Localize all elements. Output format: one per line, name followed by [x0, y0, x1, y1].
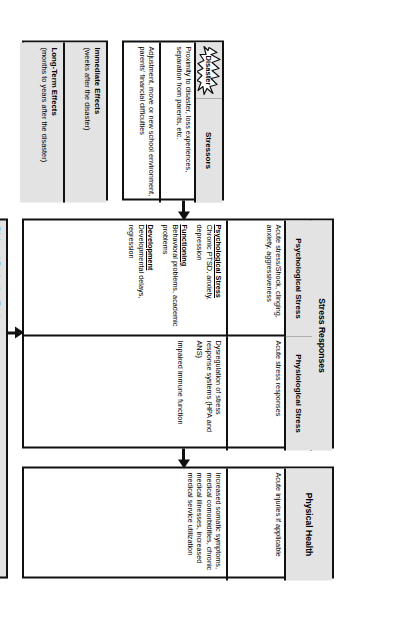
row-label-immediate-title: Immediate Effects [93, 47, 102, 114]
arrow-stress-to-physical-health [178, 448, 190, 468]
physiological-immediate-cell: Acute stress responses [226, 336, 286, 450]
psych-group-2-heading: Development [146, 224, 155, 270]
physical-health-title: Physical Health [284, 468, 332, 580]
stressors-longterm-cell: Adjustment, move or new school environme… [122, 42, 159, 202]
disaster-body: Proximity to disaster, loss experiences,… [122, 42, 196, 202]
psychological-immediate-cell: Acute stress/Shock, clinging, anxiety, a… [226, 220, 286, 336]
psych-group-0-heading: Psychological Stress [214, 224, 223, 297]
row-label-immediate: Immediate Effects (weeks after the disas… [63, 42, 106, 202]
physical-health-table: Physical Health Acute injuries if applic… [22, 466, 334, 578]
physio-item-1: Impaired immune function [176, 340, 185, 446]
stressors-immediate-cell: Proximity to disaster, loss experiences,… [159, 42, 196, 202]
row-label-longterm-detail: (months to years after the disaster) [40, 47, 49, 162]
disaster-header-row: Disaster Stressors [194, 42, 222, 202]
stressors-column-header: Stressors [196, 98, 222, 202]
row-label-longterm: Long-Term Effects (months to years after… [20, 42, 63, 202]
row-label-longterm-title: Long-Term Effects [50, 47, 59, 115]
diagram-stage: Immediate Effects (weeks after the disas… [0, 0, 394, 619]
stress-responses-title: Stress Responses [310, 220, 332, 450]
psych-group-0-text: Chronic PTSD, anxiety, depression [195, 224, 213, 299]
diagram-canvas: Immediate Effects (weeks after the disas… [0, 0, 394, 619]
arrow-stressors-to-stress-responses [178, 200, 190, 220]
stress-responses-table: Stress Responses Psychological Stress Ph… [22, 218, 334, 448]
column-header-physiological-stress: Physiological Stress [284, 336, 312, 450]
disaster-burst-cell: Disaster [196, 42, 222, 100]
psych-group-1: Functioning Behavioral problems, academi… [161, 224, 189, 330]
risk-factors-title: Risk and Protective Factors [0, 226, 2, 570]
starburst-icon: Disaster [197, 44, 221, 96]
psych-group-2: Development Developmental delays, regres… [127, 224, 155, 330]
risk-protective-factors-box: Risk and Protective Factors Exposure Pro… [0, 218, 8, 578]
physiological-longterm-cell: Dysregulation of stress response systems… [22, 336, 226, 450]
arrow-risk-factors-to-stress-responses [6, 326, 24, 338]
psych-group-1-heading: Functioning [180, 224, 189, 266]
disaster-stressors-table: Disaster Stressors Proximity to disaster… [122, 40, 224, 200]
row-label-immediate-detail: (weeks after the disaster) [83, 47, 92, 130]
psych-group-1-text: Behavioral problems, academic problems [161, 224, 179, 326]
physical-health-longterm-cell: Increased somatic symptoms, medical como… [22, 468, 226, 580]
psych-group-0: Psychological Stress Chronic PTSD, anxie… [195, 224, 223, 330]
psychological-longterm-cell: Psychological Stress Chronic PTSD, anxie… [22, 220, 226, 336]
row-label-table: Immediate Effects (weeks after the disas… [22, 40, 108, 200]
disaster-burst-label: Disaster [205, 55, 214, 85]
physical-health-body: Acute injuries if applicable Increased s… [22, 468, 286, 580]
column-header-psychological-stress: Psychological Stress [284, 220, 312, 338]
stress-responses-body: Acute stress/Shock, clinging, anxiety, a… [22, 220, 286, 450]
physio-item-0: Dysregulation of stress response systems… [195, 340, 223, 446]
stress-responses-column-headers: Psychological Stress Physiological Stres… [286, 220, 312, 450]
physical-health-immediate-cell: Acute injuries if applicable [226, 468, 286, 580]
psych-group-2-text: Developmental delays, regression [127, 224, 145, 298]
